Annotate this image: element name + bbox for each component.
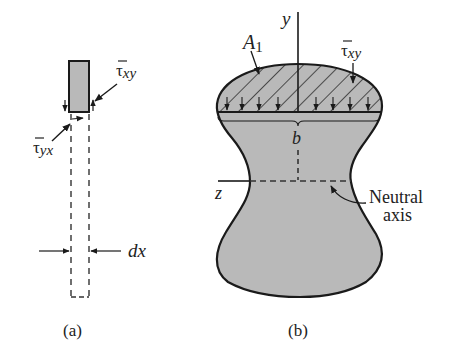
neutral-axis-label-line1: Neutral (369, 187, 423, 207)
tau-yx-label-a: τyx (33, 138, 54, 158)
dx-label: dx (128, 240, 147, 261)
bottom-shear-arrow-icon (72, 118, 83, 119)
caption-b: (b) (288, 321, 308, 340)
area-a1-hatch (200, 60, 400, 112)
caption-a: (a) (63, 321, 82, 340)
figure-b: y b z Neutral axis A1 τxy (b) (200, 8, 423, 340)
shear-stress-diagram: τxy τyx dx (a) (0, 0, 456, 361)
z-axis-label: z (214, 183, 222, 203)
area-a1-label: A1 (241, 31, 263, 55)
neutral-axis-label-line2: axis (383, 205, 412, 225)
width-label-b: b (292, 128, 301, 148)
tau-xy-label-b: τxy (341, 41, 362, 61)
figure-a: τxy τyx dx (a) (33, 61, 147, 340)
y-axis-label: y (280, 8, 291, 29)
tau-xy-leader-icon (95, 84, 117, 101)
tau-yx-leader-icon (52, 124, 70, 141)
element-strip (69, 61, 89, 112)
tau-xy-label-a: τxy (116, 61, 137, 81)
